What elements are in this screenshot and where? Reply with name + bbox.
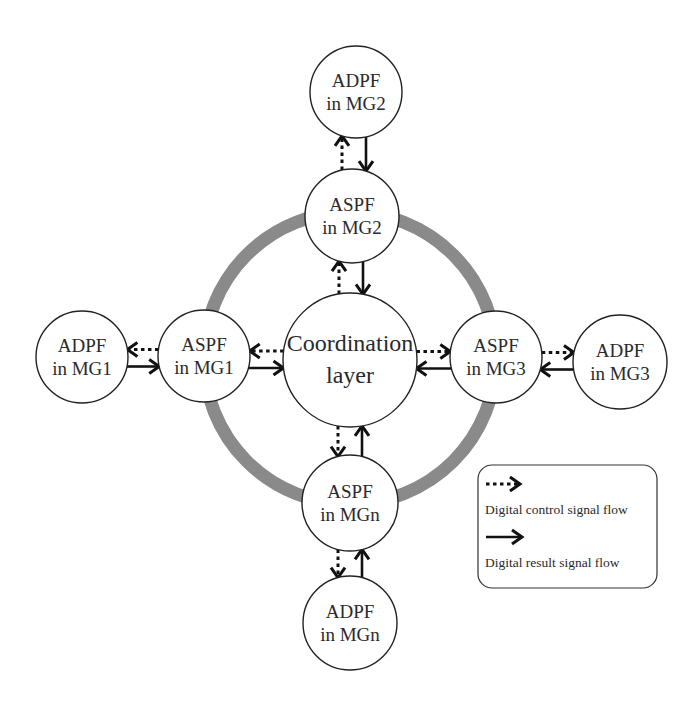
- node-label-line: ASPF: [473, 335, 518, 356]
- node-label-line: in MG1: [52, 358, 112, 379]
- node-label-line: ASPF: [181, 334, 226, 355]
- node-label-line: in MG1: [174, 357, 234, 378]
- edge-aspfn-to-adpfn-control: [331, 549, 345, 577]
- edge-adpf2-to-aspf2-result: [359, 137, 373, 171]
- node-label-line: Coordination: [287, 330, 414, 356]
- edge-aspf3-to-core-result: [416, 362, 451, 376]
- node-label-line: in MGn: [320, 624, 380, 645]
- legend: Digital control signal flow Digital resu…: [478, 465, 657, 588]
- node-adpf3: ADPFin MG3: [573, 315, 667, 409]
- node-label-line: ADPF: [58, 335, 107, 356]
- edge-adpf3-to-aspf3-result: [540, 363, 573, 377]
- node-label-line: in MGn: [320, 504, 380, 525]
- node-label-line: ASPF: [329, 194, 374, 215]
- node-aspfn: ASPFin MGn: [302, 455, 398, 551]
- node-aspf2: ASPFin MG2: [305, 169, 399, 263]
- node-label-line: ADPF: [332, 70, 381, 91]
- node-adpf2: ADPFin MG2: [310, 46, 402, 138]
- edge-aspf2-to-adpf2-control: [335, 136, 349, 170]
- node-label-line: ADPF: [596, 340, 645, 361]
- diagram-canvas: CoordinationlayerADPFin MG2ASPFin MG2ADP…: [0, 0, 696, 704]
- node-label-line: in MG3: [466, 358, 526, 379]
- legend-result-label: Digital result signal flow: [485, 555, 620, 570]
- edge-adpf1-to-aspf1-result: [127, 360, 159, 374]
- edge-aspfn-to-core-result: [355, 426, 369, 457]
- edge-aspf1-to-adpf1-control: [127, 343, 158, 357]
- node-adpfn: ADPFin MGn: [303, 576, 397, 670]
- edge-core-to-aspfn-control: [331, 426, 345, 457]
- node-label-line: ASPF: [327, 481, 372, 502]
- node-aspf3: ASPFin MG3: [450, 311, 542, 403]
- node-circle: [283, 293, 417, 427]
- node-label-line: ADPF: [326, 601, 375, 622]
- node-adpf1: ADPFin MG1: [36, 311, 128, 403]
- node-aspf1: ASPFin MG1: [158, 310, 250, 402]
- edge-aspf3-to-adpf3-control: [542, 346, 574, 360]
- node-label-line: in MG2: [322, 217, 382, 238]
- edge-core-to-aspf1-control: [250, 344, 284, 358]
- legend-control-label: Digital control signal flow: [485, 502, 628, 517]
- node-label-line: in MG2: [326, 93, 386, 114]
- edge-aspf1-to-core-result: [248, 361, 283, 375]
- edge-adpfn-to-aspfn-result: [355, 549, 369, 577]
- node-label-line: in MG3: [590, 363, 650, 384]
- node-label-line: layer: [326, 362, 374, 388]
- edge-core-to-aspf3-control: [416, 345, 450, 359]
- edge-aspf2-to-core-result: [356, 262, 370, 295]
- coordination-layer-node: Coordinationlayer: [283, 293, 417, 427]
- edge-core-to-aspf2-control: [332, 261, 346, 294]
